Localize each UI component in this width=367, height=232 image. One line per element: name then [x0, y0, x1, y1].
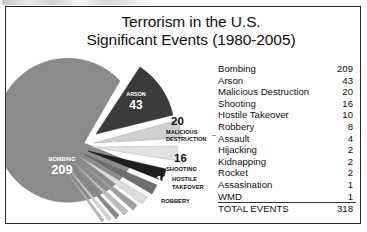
- table-row: Shooting 16: [218, 98, 356, 110]
- legend-label: Rocket: [218, 167, 332, 179]
- table-row: WMD 1: [218, 191, 356, 203]
- legend-label: Bombing: [218, 63, 332, 75]
- legend-label: WMD: [218, 191, 332, 203]
- figure-frame: Terrorism in the U.S. Significant Events…: [5, 6, 361, 224]
- legend-label: Assasination: [218, 179, 332, 191]
- table-row: Bombing 209: [218, 63, 356, 75]
- pie-label-malicious-name-1: MALICIOUS: [166, 129, 198, 135]
- pie-label-robbery-value: 8: [148, 192, 153, 203]
- table-row: Hostile Takeover 10: [218, 109, 356, 121]
- legend-value: 1: [332, 179, 356, 191]
- pie-label-arson-name: ARSON: [126, 91, 146, 97]
- table-row: Hijacking 2: [218, 144, 356, 156]
- legend-label: Robbery: [218, 121, 332, 133]
- page-title: Terrorism in the U.S. Significant Events…: [46, 13, 336, 49]
- table-row-total: TOTAL EVENTS 318: [218, 203, 356, 215]
- legend-label: Kidnapping: [218, 156, 332, 168]
- legend-total-label: TOTAL EVENTS: [218, 203, 332, 215]
- legend-value: 2: [332, 167, 356, 179]
- legend-value: 10: [332, 109, 356, 121]
- legend-label: Malicious Destruction: [218, 86, 332, 98]
- legend-value: 8: [332, 121, 356, 133]
- legend-value: 16: [332, 98, 356, 110]
- table-row: Arson 43: [218, 75, 356, 87]
- pie-chart-svg: BOMBING 209 ARSON 43 20 MALICIOUS DESTRU…: [6, 51, 214, 223]
- pie-label-bombing-value: 209: [51, 162, 73, 177]
- legend-label: Hijacking: [218, 144, 332, 156]
- table-row: Kidnapping 2: [218, 156, 356, 168]
- legend-value: 2: [332, 156, 356, 168]
- title-line-1: Terrorism in the U.S.: [121, 13, 260, 30]
- scan-artifact: [2, 0, 152, 5]
- legend-label: Shooting: [218, 98, 332, 110]
- pie-label-hostile-name-2: TAKEOVER: [172, 184, 205, 190]
- pie-label-malicious-value: 20: [171, 115, 184, 127]
- pie-label-malicious-name-2: DESTRUCTION: [166, 136, 206, 142]
- legend-value: 4: [332, 133, 356, 145]
- table-row: Malicious Destruction 20: [218, 86, 356, 98]
- table-row: Assasination 1: [218, 179, 356, 191]
- legend-label: Hostile Takeover: [218, 109, 332, 121]
- pie-label-arson-value: 43: [129, 98, 143, 112]
- legend-total-value: 318: [332, 203, 356, 215]
- table-row: Rocket 2: [218, 167, 356, 179]
- legend-label: Assault: [218, 133, 332, 145]
- legend-table: Bombing 209 Arson 43 Malicious Destructi…: [218, 63, 356, 215]
- title-line-2: Significant Events (1980-2005): [46, 31, 336, 49]
- pie-label-shooting-value: 16: [174, 152, 187, 164]
- legend-table-body: Bombing 209 Arson 43 Malicious Destructi…: [218, 63, 356, 215]
- legend-value: 209: [332, 63, 356, 75]
- pie-chart: BOMBING 209 ARSON 43 20 MALICIOUS DESTRU…: [6, 51, 214, 223]
- legend-divider: [212, 135, 216, 136]
- legend-value: 20: [332, 86, 356, 98]
- pie-label-hostile-value: 10: [156, 174, 168, 186]
- legend-label: Arson: [218, 75, 332, 87]
- table-row: Assault 4: [218, 133, 356, 145]
- pie-label-shooting-name: SHOOTING: [166, 166, 197, 172]
- legend-value: 1: [332, 191, 356, 203]
- legend-value: 2: [332, 144, 356, 156]
- pie-label-robbery-name: ROBBERY: [161, 198, 190, 204]
- legend-value: 43: [332, 75, 356, 87]
- table-row: Robbery 8: [218, 121, 356, 133]
- pie-label-hostile-name-1: HOSTILE: [172, 176, 197, 182]
